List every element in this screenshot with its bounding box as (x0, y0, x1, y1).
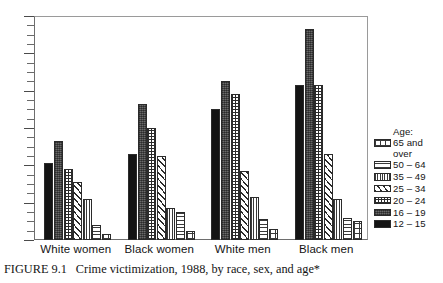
bar (44, 163, 53, 240)
bar-group (211, 16, 278, 240)
x-axis-category-label: White women (34, 243, 118, 256)
bar (269, 229, 278, 240)
bar (353, 221, 362, 240)
figure-9-1: 20406080100120 White womenBlack womenWhi… (0, 0, 443, 283)
bar (102, 234, 111, 240)
y-tick-minor (27, 212, 34, 213)
bar (324, 154, 333, 240)
legend-swatch-icon (374, 185, 391, 193)
y-tick-minor (27, 109, 34, 110)
legend-swatch-icon (374, 173, 391, 181)
y-tick-major (24, 128, 34, 129)
y-tick-minor (27, 44, 34, 45)
legend-swatch-icon (374, 197, 391, 205)
y-tick-minor (27, 137, 34, 138)
bar (157, 156, 166, 240)
bar (250, 197, 259, 240)
bar (73, 182, 82, 240)
y-tick-minor (27, 81, 34, 82)
bar (92, 225, 101, 240)
bar (54, 141, 63, 240)
y-tick-minor (27, 25, 34, 26)
bar (64, 169, 73, 240)
y-tick-minor (27, 156, 34, 157)
y-tick-major (24, 240, 34, 241)
legend-swatch-icon (374, 139, 391, 147)
legend-title: Age: (393, 126, 442, 137)
figure-number: FIGURE 9.1 (4, 262, 67, 276)
bar-group (295, 16, 362, 240)
legend-swatch-icon (374, 209, 391, 217)
y-tick-minor (27, 193, 34, 194)
bar (221, 81, 230, 240)
legend-item: 65 and over (374, 138, 442, 159)
legend-rows: 65 and over50 – 6435 – 4925 – 3420 – 241… (374, 138, 442, 230)
bar (231, 94, 240, 240)
legend-item: 50 – 64 (374, 160, 442, 171)
legend-swatch-icon (374, 161, 391, 169)
legend-swatch-icon (374, 220, 391, 228)
bar (186, 231, 195, 240)
bars-layer (34, 16, 368, 240)
legend-item-label: 20 – 24 (393, 196, 426, 207)
bar (259, 219, 268, 240)
y-tick-minor (27, 147, 34, 148)
bar (138, 104, 147, 240)
y-tick-minor (27, 221, 34, 222)
legend-item-label: 35 – 49 (393, 172, 426, 183)
x-axis-category-label: White men (201, 243, 285, 256)
y-tick-minor (27, 35, 34, 36)
bar (343, 218, 352, 240)
bar-group (44, 16, 111, 240)
bar (83, 199, 92, 240)
y-tick-major (24, 165, 34, 166)
y-axis: 20406080100120 (0, 0, 34, 240)
legend-item: 35 – 49 (374, 172, 442, 183)
legend-item-label: 16 – 19 (393, 208, 426, 219)
bar (128, 154, 137, 240)
caption-text: Crime victimization, 1988, by race, sex,… (76, 262, 320, 276)
y-tick-minor (27, 231, 34, 232)
legend-item: 12 – 15 (374, 219, 442, 230)
bar (211, 109, 220, 240)
bar (176, 212, 185, 240)
bar (314, 85, 323, 240)
y-tick-major (24, 203, 34, 204)
bar (305, 29, 314, 240)
legend-item-label: 25 – 34 (393, 184, 426, 195)
figure-caption: FIGURE 9.1Crime victimization, 1988, by … (4, 262, 439, 276)
bar (240, 171, 249, 240)
y-tick-major (24, 91, 34, 92)
y-tick-major (24, 53, 34, 54)
y-tick-minor (27, 100, 34, 101)
x-axis-category-label: Black men (285, 243, 369, 256)
y-tick-minor (27, 175, 34, 176)
y-tick-major (24, 16, 34, 17)
bar (333, 199, 342, 240)
x-axis-labels: White womenBlack womenWhite menBlack men (34, 243, 368, 259)
y-tick-minor (27, 63, 34, 64)
x-axis-category-label: Black women (118, 243, 202, 256)
y-tick-minor (27, 119, 34, 120)
legend-item: 16 – 19 (374, 208, 442, 219)
bar-group (128, 16, 195, 240)
y-tick-minor (27, 72, 34, 73)
bar (295, 85, 304, 240)
y-tick-minor (27, 184, 34, 185)
bar (166, 208, 175, 240)
legend-item-label: 12 – 15 (393, 219, 426, 230)
legend: Age: 65 and over50 – 6435 – 4925 – 3420 … (374, 126, 442, 231)
legend-item: 25 – 34 (374, 184, 442, 195)
legend-item-label: 50 – 64 (393, 160, 426, 171)
legend-item-label: 65 and over (393, 138, 423, 159)
bar (147, 128, 156, 240)
legend-item: 20 – 24 (374, 196, 442, 207)
